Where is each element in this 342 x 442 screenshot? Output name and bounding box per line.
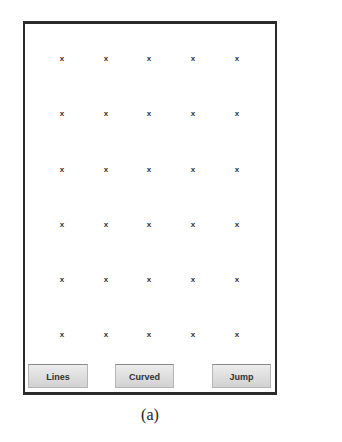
grid-point-marker[interactable]: x xyxy=(101,109,111,119)
lines-button[interactable]: Lines xyxy=(28,364,88,388)
grid-point-marker[interactable]: x xyxy=(144,109,154,119)
jump-button[interactable]: Jump xyxy=(212,364,271,388)
grid-point-marker[interactable]: x xyxy=(57,54,67,64)
grid-point-marker[interactable]: x xyxy=(144,220,154,230)
grid-point-marker[interactable]: x xyxy=(101,275,111,285)
grid-point-marker[interactable]: x xyxy=(188,165,198,175)
grid-point-marker[interactable]: x xyxy=(144,275,154,285)
grid-point-marker[interactable]: x xyxy=(57,330,67,340)
grid-point-marker[interactable]: x xyxy=(232,330,242,340)
grid-point-marker[interactable]: x xyxy=(188,220,198,230)
grid-point-marker[interactable]: x xyxy=(232,54,242,64)
grid-point-marker[interactable]: x xyxy=(101,220,111,230)
grid-point-marker[interactable]: x xyxy=(232,165,242,175)
grid-point-marker[interactable]: x xyxy=(144,165,154,175)
grid-point-marker[interactable]: x xyxy=(232,275,242,285)
grid-point-marker[interactable]: x xyxy=(57,165,67,175)
grid-point-marker[interactable]: x xyxy=(57,109,67,119)
grid-point-marker[interactable]: x xyxy=(232,220,242,230)
grid-point-marker[interactable]: x xyxy=(101,165,111,175)
grid-point-marker[interactable]: x xyxy=(188,330,198,340)
grid-point-marker[interactable]: x xyxy=(101,54,111,64)
app-canvas[interactable]: xxxxxxxxxxxxxxxxxxxxxxxxxxxxxx Lines Cur… xyxy=(23,21,277,395)
grid-point-marker[interactable]: x xyxy=(188,54,198,64)
grid-point-marker[interactable]: x xyxy=(57,275,67,285)
grid-point-marker[interactable]: x xyxy=(188,109,198,119)
grid-point-marker[interactable]: x xyxy=(101,330,111,340)
grid-point-marker[interactable]: x xyxy=(144,330,154,340)
curved-button[interactable]: Curved xyxy=(115,364,174,388)
grid-point-marker[interactable]: x xyxy=(188,275,198,285)
figure-caption: (a) xyxy=(0,406,300,424)
grid-point-marker[interactable]: x xyxy=(144,54,154,64)
grid-point-marker[interactable]: x xyxy=(232,109,242,119)
grid-point-marker[interactable]: x xyxy=(57,220,67,230)
